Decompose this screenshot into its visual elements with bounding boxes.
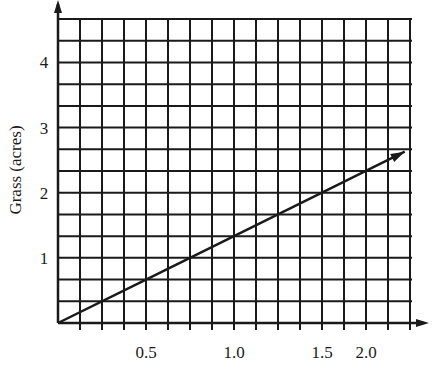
y-axis-arrow-icon (54, 0, 62, 13)
x-tick-label: 2.0 (355, 343, 376, 362)
y-tick-label: 4 (40, 53, 49, 72)
x-tick-label: 0.5 (135, 343, 156, 362)
series-arrow-icon (390, 152, 405, 162)
y-tick-label: 2 (40, 184, 49, 203)
x-tick-label: 1.5 (311, 343, 332, 362)
axes (54, 0, 429, 327)
x-axis-arrow-icon (416, 319, 429, 327)
data-series (58, 152, 405, 323)
y-tick-label: 3 (40, 119, 49, 138)
x-tick-labels: 0.51.01.52.0 (135, 343, 376, 362)
x-tick-label: 1.0 (223, 343, 244, 362)
y-tick-label: 1 (40, 249, 49, 268)
y-axis-title: Grass (acres) (6, 125, 25, 214)
y-tick-labels: 1234 (40, 53, 49, 267)
grass-chart: 0.51.01.52.0 1234 Grass (acres) (0, 0, 434, 378)
series-line (58, 152, 405, 323)
